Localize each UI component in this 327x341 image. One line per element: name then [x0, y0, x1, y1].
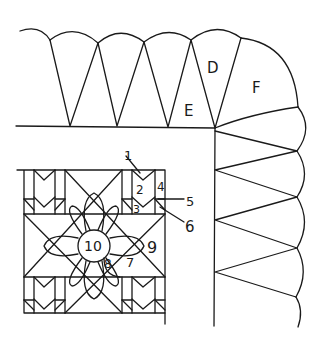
label-1: 1	[124, 148, 132, 163]
label-d: D	[207, 59, 219, 77]
label-10: 10	[84, 238, 102, 254]
label-8: 8	[104, 257, 112, 271]
right-border	[214, 107, 306, 327]
quilt-diagram: D E F	[0, 0, 327, 341]
label-2: 2	[136, 183, 144, 197]
corner-unit-top-left	[24, 170, 65, 214]
label-4: 4	[157, 180, 165, 194]
top-border	[16, 29, 241, 128]
label-9: 9	[147, 238, 157, 257]
label-7: 7	[126, 255, 134, 270]
label-e: E	[184, 102, 193, 120]
corner-unit-bottom-right	[122, 277, 165, 313]
label-3: 3	[133, 203, 140, 216]
label-6: 6	[185, 218, 195, 236]
corner-unit-bottom-left	[24, 277, 65, 313]
label-5: 5	[186, 194, 194, 209]
label-f: F	[252, 79, 261, 97]
